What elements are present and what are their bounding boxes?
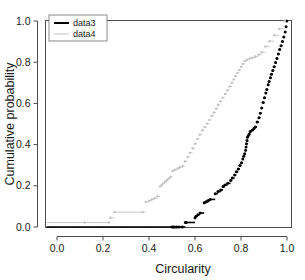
data-point xyxy=(236,72,238,74)
data-point xyxy=(208,119,210,121)
x-axis-title: Circularity xyxy=(155,262,211,276)
data-point xyxy=(251,56,253,58)
data-point xyxy=(206,122,208,124)
y-tick-label: 0.0 xyxy=(16,221,31,233)
data-point xyxy=(153,197,155,199)
data-point xyxy=(246,59,248,61)
data-point xyxy=(210,115,212,117)
data-point xyxy=(282,36,285,39)
data-point xyxy=(203,126,205,128)
data-point xyxy=(141,211,143,213)
data-point xyxy=(226,89,228,91)
data-point xyxy=(265,88,268,91)
data-point xyxy=(249,57,251,59)
x-tick-label: 0.4 xyxy=(142,242,157,254)
data-point xyxy=(184,160,186,162)
data-point xyxy=(179,166,181,168)
data-point xyxy=(223,183,226,186)
data-point xyxy=(231,176,234,179)
plot-border xyxy=(46,21,292,228)
x-tick-label: 0.0 xyxy=(50,242,65,254)
data-point xyxy=(267,83,270,86)
data-point xyxy=(278,28,280,30)
data-point xyxy=(171,170,173,172)
x-axis: 0.00.20.40.60.81.0 xyxy=(50,237,295,254)
y-tick-label: 0.6 xyxy=(16,97,31,109)
data-point xyxy=(181,226,184,229)
data-point xyxy=(238,69,240,71)
data-point xyxy=(233,174,236,177)
data-point xyxy=(214,192,217,195)
legend-label-data4: data4 xyxy=(73,29,96,39)
data-point xyxy=(224,93,226,95)
data-point xyxy=(166,179,168,181)
data-point xyxy=(284,20,286,22)
data-point xyxy=(217,104,219,106)
data-point xyxy=(151,198,153,200)
data-point xyxy=(268,40,270,42)
data-point xyxy=(186,156,188,158)
data-point xyxy=(242,63,244,65)
data-point xyxy=(238,164,241,167)
chart-container: 0.00.20.40.60.81.0 0.00.20.40.60.81.0 Ci… xyxy=(0,0,305,280)
y-tick-label: 0.4 xyxy=(16,138,31,150)
data-point xyxy=(156,195,158,197)
data-point xyxy=(194,143,196,145)
data-point xyxy=(192,147,194,149)
data-point xyxy=(278,48,281,51)
data-point xyxy=(235,170,238,173)
data-point xyxy=(162,182,164,184)
data-point xyxy=(261,51,263,53)
data-point xyxy=(271,69,274,72)
x-tick-label: 0.6 xyxy=(188,242,203,254)
data-point xyxy=(241,158,244,161)
legend-label-data3: data3 xyxy=(73,18,96,28)
data-point xyxy=(176,167,178,169)
data-point xyxy=(219,188,222,191)
data-point xyxy=(226,182,229,185)
data-point xyxy=(221,96,223,98)
data-point xyxy=(244,149,247,152)
data-point xyxy=(215,108,217,110)
data-point xyxy=(245,146,248,149)
data-point xyxy=(262,101,265,104)
data-point xyxy=(264,45,266,47)
data-point xyxy=(144,201,146,203)
data-point xyxy=(273,34,275,36)
data-point xyxy=(83,221,85,223)
data-point xyxy=(259,112,262,115)
data-point xyxy=(254,55,256,57)
data-point xyxy=(274,61,277,64)
data-point xyxy=(268,80,271,83)
data-point xyxy=(257,54,259,56)
data-point xyxy=(245,142,248,145)
series-data3 xyxy=(47,20,289,229)
data-point xyxy=(174,169,176,171)
data-point xyxy=(281,40,284,43)
data-point xyxy=(234,75,236,77)
data-point xyxy=(181,165,183,167)
data-point xyxy=(240,66,242,68)
data-point xyxy=(168,177,170,179)
data-point xyxy=(198,134,200,136)
x-tick-label: 1.0 xyxy=(280,242,295,254)
data-point xyxy=(232,78,234,80)
data-point xyxy=(109,217,111,219)
y-axis: 0.00.20.40.60.81.0 xyxy=(16,15,38,233)
series-data4 xyxy=(47,20,286,224)
data-point xyxy=(108,221,110,223)
data-point xyxy=(169,176,171,178)
data-point xyxy=(280,44,283,47)
data-point xyxy=(196,138,198,140)
data-point xyxy=(273,65,276,68)
x-tick-label: 0.8 xyxy=(234,242,249,254)
data-point xyxy=(113,211,115,213)
y-tick-label: 1.0 xyxy=(16,15,31,27)
data-point xyxy=(263,96,266,99)
data-point xyxy=(245,139,248,142)
x-tick-label: 0.2 xyxy=(96,242,111,254)
data-point xyxy=(269,76,272,79)
data-point xyxy=(231,82,233,84)
ecdf-chart: 0.00.20.40.60.81.0 0.00.20.40.60.81.0 Ci… xyxy=(0,0,305,280)
data-point xyxy=(277,52,280,55)
